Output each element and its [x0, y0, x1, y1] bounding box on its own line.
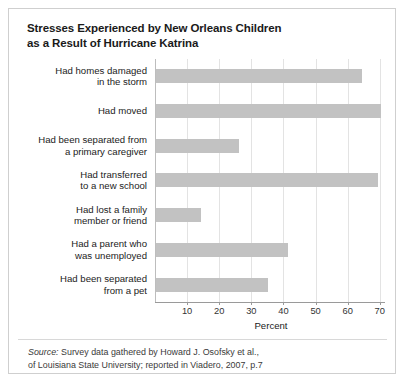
x-tick-mark [187, 302, 188, 305]
x-tick-label: 60 [335, 306, 361, 316]
source-note: Source: Survey data gathered by Howard J… [28, 346, 373, 371]
x-tick-mark [380, 302, 381, 305]
category-label-line: Had been separated from [38, 134, 147, 146]
category-axis-labels: Had homes damagedin the stormHad movedHa… [23, 59, 151, 302]
category-label-line: to a new school [80, 180, 147, 192]
category-label-line: from a pet [104, 285, 147, 297]
category-label-line: Had been separated [60, 273, 147, 285]
chart-title-line-second: as a Result of Hurricane Katrina [27, 36, 357, 51]
bar-row [156, 233, 383, 268]
bar-row [156, 128, 383, 163]
source-note-text-1: Survey data gathered by Howard J. Osofsk… [59, 347, 259, 357]
source-divider [18, 339, 387, 340]
x-tick-label: 40 [270, 306, 296, 316]
x-tick-mark [348, 302, 349, 305]
x-axis-ticks: 10203040506070 [155, 302, 387, 318]
x-tick-mark [219, 302, 220, 305]
x-axis-label: Percent [155, 320, 387, 331]
source-note-line-1: Source: Survey data gathered by Howard J… [28, 346, 373, 359]
bar [156, 104, 381, 118]
x-tick-mark [251, 302, 252, 305]
x-tick-label: 70 [367, 306, 393, 316]
plot-area [155, 59, 383, 302]
category-label-line: Had moved [98, 105, 147, 117]
category-label: Had transferredto a new school [23, 163, 151, 198]
bar-row [156, 267, 383, 302]
x-tick-label: 30 [238, 306, 264, 316]
bar-row [156, 198, 383, 233]
bar [156, 278, 268, 292]
bar-row [156, 163, 383, 198]
bar-row [156, 94, 383, 129]
category-label: Had lost a familymember or friend [23, 198, 151, 233]
category-label: Had been separatedfrom a pet [23, 267, 151, 302]
bar-series [156, 59, 383, 302]
source-note-line-2: of Louisiana State University; reported … [28, 359, 373, 372]
category-label: Had homes damagedin the storm [23, 59, 151, 94]
category-label-line: a primary caregiver [65, 146, 147, 158]
x-tick-label: 50 [303, 306, 329, 316]
bar-row [156, 59, 383, 94]
bar [156, 173, 378, 187]
x-tick-label: 10 [174, 306, 200, 316]
category-label-line: Had lost a family [76, 204, 147, 216]
bar [156, 139, 239, 153]
x-tick-mark [283, 302, 284, 305]
bar [156, 69, 362, 83]
chart-title-line-first: Stresses Experienced by New Orleans Chil… [27, 21, 357, 36]
category-label: Had a parent whowas unemployed [23, 233, 151, 268]
chart-title: Stresses Experienced by New Orleans Chil… [27, 21, 357, 51]
x-tick-label: 20 [206, 306, 232, 316]
bar [156, 208, 201, 222]
category-label: Had moved [23, 94, 151, 129]
bar [156, 243, 288, 257]
category-label: Had been separated froma primary caregiv… [23, 128, 151, 163]
category-label-line: member or friend [74, 215, 147, 227]
category-label-line: Had a parent who [71, 238, 147, 250]
figure-frame: Stresses Experienced by New Orleans Chil… [8, 8, 396, 374]
category-label-line: Had transferred [80, 169, 147, 181]
category-label-line: in the storm [97, 76, 147, 88]
category-label-line: was unemployed [75, 250, 147, 262]
source-label: Source: [28, 347, 59, 357]
x-tick-mark [316, 302, 317, 305]
category-label-line: Had homes damaged [55, 65, 147, 77]
